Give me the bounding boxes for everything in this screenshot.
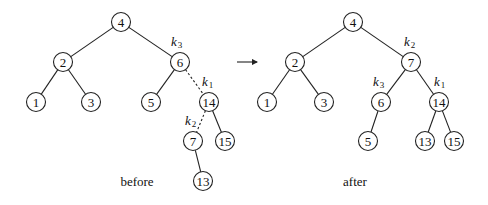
node-after-15: 15 [445, 132, 464, 151]
edge-before-6-14 [186, 70, 204, 95]
node-label: 3 [321, 95, 328, 110]
k-label-before-3: k3 [171, 34, 183, 50]
edge-after-4-7 [361, 27, 403, 56]
tree-rotation-diagram: 42613514715134271361451315 k3k1k2beforek… [0, 0, 488, 205]
edge-before-4-2 [71, 27, 113, 56]
node-label: 14 [433, 95, 447, 110]
node-before-4: 4 [112, 13, 131, 32]
node-before-14: 14 [200, 93, 219, 112]
node-label: 15 [448, 134, 461, 149]
node-label: 2 [292, 55, 299, 70]
k-label-before-1: k1 [202, 74, 213, 90]
node-after-1: 1 [258, 93, 277, 112]
node-label: 6 [177, 55, 184, 70]
node-label: 13 [197, 174, 210, 189]
caption-before: before [120, 174, 153, 189]
node-before-6: 6 [171, 53, 190, 72]
edge-after-7-14 [416, 70, 433, 94]
node-before-2: 2 [54, 53, 73, 72]
node-label: 13 [419, 134, 432, 149]
edge-before-2-3 [68, 70, 85, 94]
node-label: 7 [408, 55, 415, 70]
node-before-1: 1 [27, 93, 46, 112]
node-label: 15 [219, 134, 232, 149]
node-after-5: 5 [359, 132, 378, 151]
edge-after-6-5 [371, 111, 378, 132]
edge-after-14-15 [442, 111, 450, 132]
nodes-layer: 42613514715134271361451315 [27, 13, 464, 191]
node-label: 7 [190, 134, 197, 149]
node-label: 5 [148, 95, 155, 110]
edge-after-2-3 [301, 70, 319, 95]
node-label: 4 [118, 15, 125, 30]
node-before-13: 13 [194, 172, 213, 191]
edge-before-6-5 [157, 70, 175, 95]
node-label: 3 [88, 95, 95, 110]
node-before-15: 15 [216, 132, 235, 151]
node-label: 5 [365, 134, 372, 149]
edge-after-14-13 [428, 111, 436, 132]
k-label-after-1: k1 [434, 74, 445, 90]
node-label: 6 [378, 95, 385, 110]
node-after-6: 6 [372, 93, 391, 112]
node-after-14: 14 [430, 93, 449, 112]
node-before-7: 7 [184, 132, 203, 151]
caption-after: after [343, 174, 367, 189]
node-before-5: 5 [142, 93, 161, 112]
node-after-13: 13 [416, 132, 435, 151]
edge-after-7-6 [387, 70, 406, 95]
node-after-2: 2 [286, 53, 305, 72]
node-label: 4 [350, 15, 357, 30]
node-label: 14 [203, 95, 217, 110]
node-after-7: 7 [402, 53, 421, 72]
node-before-3: 3 [82, 93, 101, 112]
k-label-after-2: k2 [404, 34, 415, 50]
edge-before-4-6 [129, 27, 172, 56]
edge-before-2-1 [41, 70, 57, 94]
edge-before-14-15 [213, 111, 222, 132]
node-label: 1 [33, 95, 40, 110]
node-after-3: 3 [315, 93, 334, 112]
edge-before-14-7 [197, 111, 206, 132]
node-label: 2 [60, 55, 67, 70]
labels-layer: k3k1k2beforek2k3k1after [120, 34, 445, 189]
edge-after-2-1 [272, 70, 289, 94]
k-label-before-2: k2 [185, 113, 196, 129]
edge-before-7-13 [195, 150, 200, 172]
k-label-after-3: k3 [373, 74, 385, 90]
node-label: 1 [264, 95, 271, 110]
edge-after-4-2 [303, 27, 345, 56]
node-after-4: 4 [344, 13, 363, 32]
